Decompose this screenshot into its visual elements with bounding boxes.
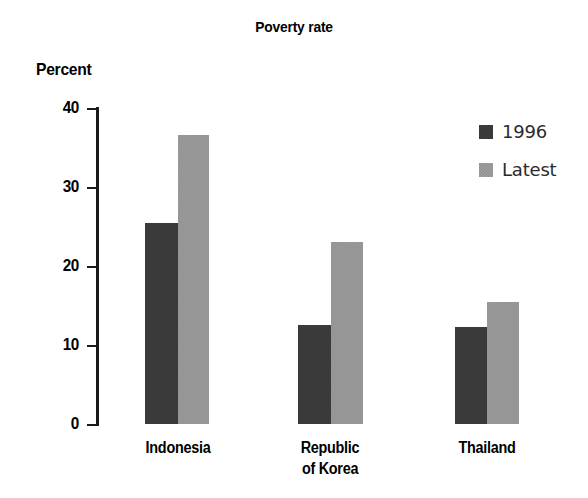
x-label-korea-line2: of Korea <box>272 458 389 479</box>
y-tick-label-20: 20 <box>38 256 79 276</box>
bar-indonesia-1996 <box>145 223 178 424</box>
bar-thailand-latest <box>487 302 519 424</box>
bar-korea-latest <box>331 242 363 424</box>
y-tick-label-0: 0 <box>38 414 79 434</box>
y-tick-label-10: 10 <box>38 335 79 355</box>
bar-korea-1996 <box>298 325 331 424</box>
legend-swatch-1996-icon <box>479 125 493 139</box>
bar-indonesia-latest <box>178 135 209 424</box>
x-label-korea-line1: Republic <box>272 437 389 458</box>
x-label-indonesia-line1: Indonesia <box>120 437 237 458</box>
y-tick-mark-30 <box>87 187 96 189</box>
poverty-rate-chart: Poverty rate Percent 40 30 20 10 0 Indon… <box>0 0 588 498</box>
y-tick-label-40: 40 <box>38 98 79 118</box>
chart-title: Poverty rate <box>24 18 565 35</box>
legend-swatch-latest-icon <box>479 163 493 177</box>
bar-group-indonesia <box>145 108 209 424</box>
bar-thailand-1996 <box>455 327 487 424</box>
y-tick-mark-10 <box>87 345 96 347</box>
legend-label-latest: Latest <box>502 159 556 180</box>
legend-label-1996: 1996 <box>502 121 547 142</box>
y-tick-mark-20 <box>87 266 96 268</box>
x-label-indonesia: Indonesia <box>120 437 237 458</box>
x-label-thailand-line1: Thailand <box>429 437 546 458</box>
x-label-thailand: Thailand <box>429 437 546 458</box>
x-label-republic-of-korea: Republic of Korea <box>272 437 389 479</box>
plot-area <box>96 108 536 424</box>
y-axis-label: Percent <box>36 60 91 80</box>
y-tick-mark-40 <box>87 108 96 110</box>
y-tick-mark-0 <box>87 424 96 426</box>
bar-group-thailand <box>455 108 519 424</box>
y-tick-label-30: 30 <box>38 177 79 197</box>
bar-group-republic-of-korea <box>298 108 363 424</box>
